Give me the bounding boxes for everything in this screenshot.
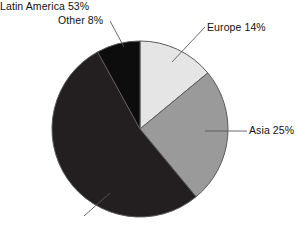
pie-chart-canvas: [0, 0, 307, 239]
leader-line-other: [110, 21, 124, 47]
pie-label-latin-america: Latin America 53%: [0, 0, 89, 12]
pie-label-asia: Asia 25%: [249, 124, 294, 136]
pie-chart: Other 8% Europe 14% Asia 25% Latin Ameri…: [0, 0, 307, 239]
pie-label-other: Other 8%: [58, 14, 103, 26]
pie-label-europe: Europe 14%: [207, 21, 266, 33]
pie-slices: [52, 41, 228, 217]
